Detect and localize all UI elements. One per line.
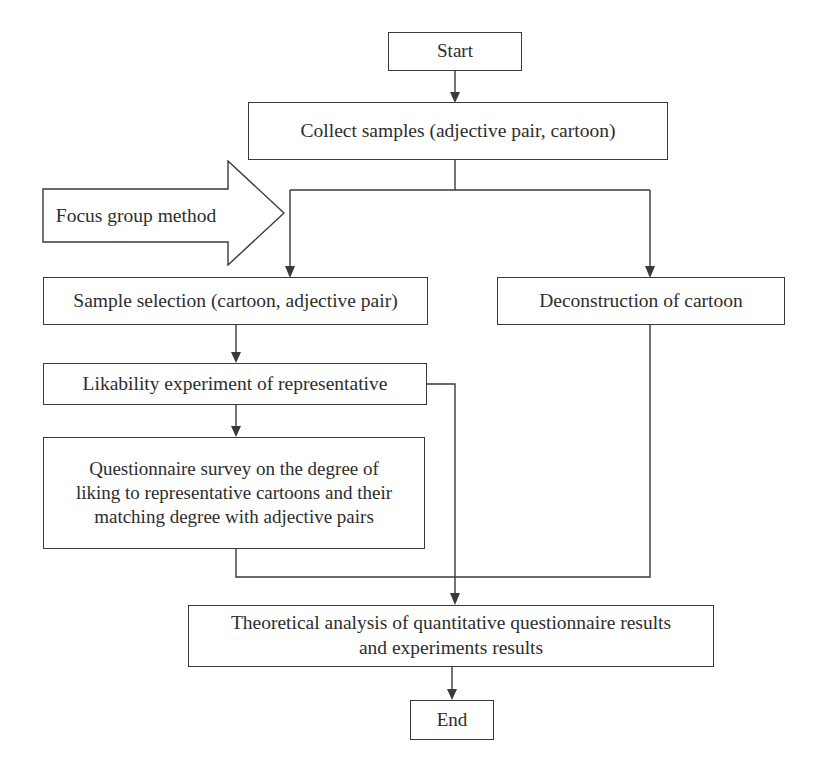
node-sample-selection[interactable]: Sample selection (cartoon, adjective pai… <box>43 277 428 325</box>
arrowhead-join-to-theoretical <box>450 593 460 605</box>
node-focus-group-method-label: Focus group method <box>42 189 230 242</box>
node-start-label: Start <box>389 39 521 63</box>
node-sample-selection-label: Sample selection (cartoon, adjective pai… <box>44 289 427 314</box>
node-questionnaire-survey-label: Questionnaire survey on the degree of li… <box>44 457 424 530</box>
flowchart-canvas: Start Collect samples (adjective pair, c… <box>0 0 816 771</box>
edge-likability-to-join <box>427 384 455 598</box>
edge-questionnaire-to-join <box>236 549 455 577</box>
edge-deconstruction-to-join <box>455 325 650 577</box>
node-questionnaire-survey[interactable]: Questionnaire survey on the degree of li… <box>43 437 425 549</box>
arrowhead-likability-to-questionnaire <box>231 426 241 437</box>
node-end-label: End <box>411 708 493 732</box>
node-start[interactable]: Start <box>388 32 522 71</box>
node-likability-experiment-label: Likability experiment of representative <box>44 372 426 397</box>
node-collect-samples[interactable]: Collect samples (adjective pair, cartoon… <box>248 102 668 160</box>
arrowhead-theoretical-to-end <box>447 689 457 700</box>
arrowhead-sample-to-likability <box>231 352 241 363</box>
node-deconstruction-of-cartoon[interactable]: Deconstruction of cartoon <box>497 277 785 325</box>
node-likability-experiment[interactable]: Likability experiment of representative <box>43 363 427 405</box>
node-theoretical-analysis-label: Theoretical analysis of quantitative que… <box>189 611 713 661</box>
node-collect-samples-label: Collect samples (adjective pair, cartoon… <box>249 119 667 144</box>
node-end[interactable]: End <box>410 700 494 740</box>
node-deconstruction-of-cartoon-label: Deconstruction of cartoon <box>498 289 784 314</box>
node-focus-group-method[interactable]: Focus group method <box>42 160 286 266</box>
node-theoretical-analysis[interactable]: Theoretical analysis of quantitative que… <box>188 605 714 667</box>
